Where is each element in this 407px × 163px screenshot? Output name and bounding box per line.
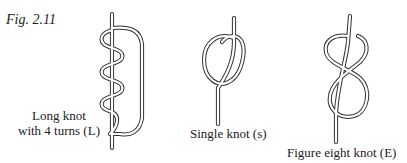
single-knot-illustration — [198, 12, 258, 132]
caption-line: Long knot — [18, 108, 100, 123]
caption-line: with 4 turns (L) — [18, 123, 100, 138]
figure-eight-knot-illustration — [318, 12, 378, 147]
figure-eight-knot-caption: Figure eight knot (E) — [287, 145, 396, 160]
caption-line: Single knot (s) — [190, 126, 267, 141]
figure-label: Fig. 2.11 — [6, 12, 56, 28]
single-knot-caption: Single knot (s) — [190, 126, 267, 141]
caption-line: Figure eight knot (E) — [287, 145, 396, 160]
long-knot-caption: Long knot with 4 turns (L) — [18, 108, 100, 138]
